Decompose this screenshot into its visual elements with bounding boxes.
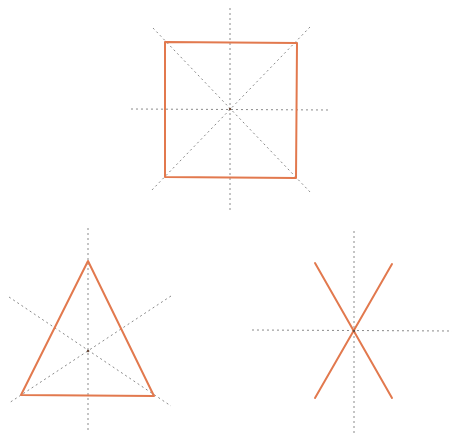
square-figure bbox=[131, 8, 330, 213]
symmetry-diagram bbox=[0, 0, 465, 436]
x-star-symmetry-line-2 bbox=[252, 330, 452, 331]
triangle-center-point bbox=[87, 350, 89, 352]
triangle-symmetry-line-2 bbox=[9, 297, 171, 406]
x-star-figure bbox=[252, 231, 452, 434]
square-symmetry-line-3 bbox=[153, 28, 311, 193]
triangle-figure bbox=[9, 228, 171, 431]
x-star-center-point bbox=[353, 330, 355, 332]
square-center-point bbox=[229, 108, 231, 110]
triangle-symmetry-line-3 bbox=[9, 296, 171, 403]
